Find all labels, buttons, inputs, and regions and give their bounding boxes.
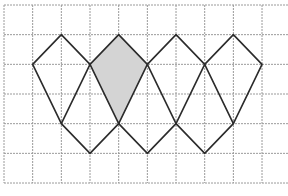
kite-grid-diagram — [0, 0, 288, 196]
background — [0, 0, 288, 196]
